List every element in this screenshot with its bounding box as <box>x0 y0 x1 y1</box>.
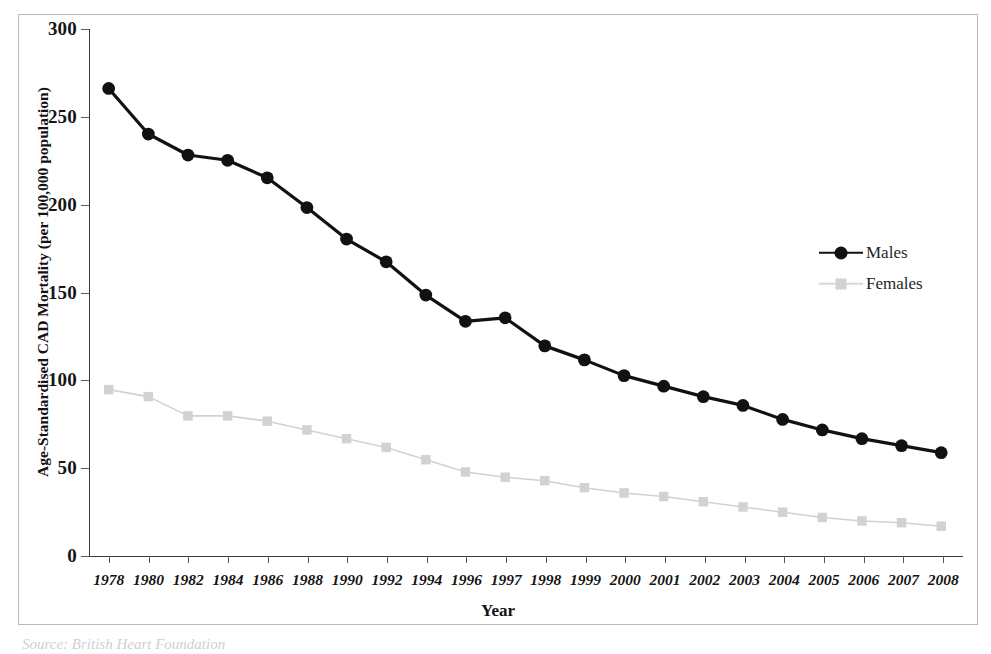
data-point-females-2008[interactable] <box>936 521 945 530</box>
chart-legend: Males Females <box>819 237 923 299</box>
data-point-males-1986[interactable] <box>261 171 274 184</box>
data-point-males-2000[interactable] <box>618 369 631 382</box>
series-line-females <box>109 390 942 527</box>
data-point-females-1997[interactable] <box>500 472 509 481</box>
data-point-females-1980[interactable] <box>144 392 153 401</box>
data-point-females-1982[interactable] <box>183 411 192 420</box>
chart-area: 050100150200250300 197819801982198419861… <box>19 15 977 624</box>
data-point-females-1990[interactable] <box>342 434 351 443</box>
data-point-males-1999[interactable] <box>578 353 591 366</box>
data-point-males-1980[interactable] <box>142 128 155 141</box>
legend-marker-females <box>819 277 863 291</box>
data-point-males-1996[interactable] <box>459 315 472 328</box>
data-point-males-1988[interactable] <box>301 201 314 214</box>
data-point-males-1997[interactable] <box>499 311 512 324</box>
data-point-females-2005[interactable] <box>818 513 827 522</box>
data-point-females-2003[interactable] <box>738 502 747 511</box>
series-line-males <box>109 88 942 452</box>
legend-item-males[interactable]: Males <box>819 237 923 268</box>
data-point-females-1998[interactable] <box>540 476 549 485</box>
data-point-females-1988[interactable] <box>302 425 311 434</box>
x-axis-title: Year <box>19 601 977 621</box>
data-point-females-2007[interactable] <box>897 518 906 527</box>
data-point-males-2001[interactable] <box>657 380 670 393</box>
data-point-males-2007[interactable] <box>895 439 908 452</box>
legend-marker-males <box>819 246 863 260</box>
data-point-females-1978[interactable] <box>104 385 113 394</box>
data-point-males-2006[interactable] <box>856 432 869 445</box>
data-point-females-1984[interactable] <box>223 411 232 420</box>
data-point-females-2002[interactable] <box>699 497 708 506</box>
data-point-females-2006[interactable] <box>857 516 866 525</box>
legend-item-females[interactable]: Females <box>819 268 923 299</box>
legend-label-males: Males <box>866 243 908 263</box>
figure-frame: 050100150200250300 197819801982198419861… <box>18 14 978 625</box>
data-point-males-1978[interactable] <box>102 82 115 95</box>
caption-remnant: Source: British Heart Foundation <box>22 636 582 652</box>
data-point-females-1986[interactable] <box>263 416 272 425</box>
data-point-females-1996[interactable] <box>461 467 470 476</box>
legend-label-females: Females <box>866 274 923 294</box>
data-point-males-1992[interactable] <box>380 255 393 268</box>
data-point-males-2005[interactable] <box>816 424 829 437</box>
data-point-males-1998[interactable] <box>538 339 551 352</box>
data-point-females-1992[interactable] <box>381 443 390 452</box>
data-point-males-1982[interactable] <box>182 149 195 162</box>
series-layer <box>19 15 977 624</box>
data-point-males-1990[interactable] <box>340 233 353 246</box>
data-point-males-2008[interactable] <box>935 446 948 459</box>
data-point-females-1994[interactable] <box>421 455 430 464</box>
data-point-females-2000[interactable] <box>619 488 628 497</box>
data-point-males-1984[interactable] <box>221 154 234 167</box>
series-females <box>104 385 946 531</box>
data-point-males-1994[interactable] <box>419 289 432 302</box>
data-point-females-2004[interactable] <box>778 507 787 516</box>
data-point-females-1999[interactable] <box>580 483 589 492</box>
y-axis-title: Age-Standardised CAD Mortality (per 100,… <box>34 22 52 542</box>
data-point-females-2001[interactable] <box>659 492 668 501</box>
data-point-males-2004[interactable] <box>776 413 789 426</box>
data-point-males-2003[interactable] <box>737 399 750 412</box>
data-point-males-2002[interactable] <box>697 390 710 403</box>
